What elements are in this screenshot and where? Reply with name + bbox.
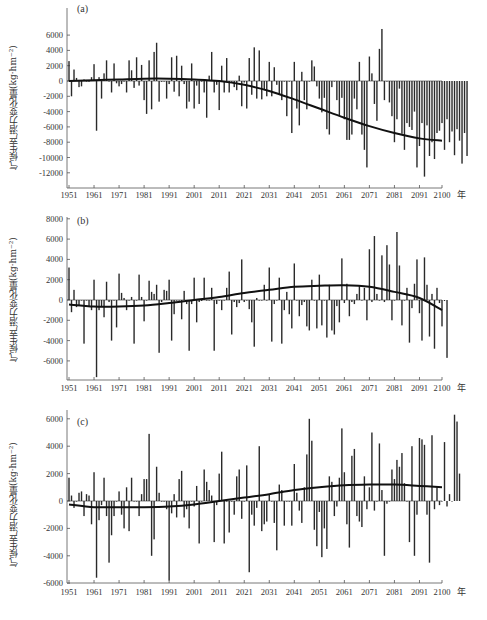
data-bar — [324, 501, 325, 528]
data-bar — [239, 300, 240, 303]
y-tick-label: 4000 — [46, 45, 63, 55]
data-bar — [304, 300, 305, 302]
y-tick-label: 0 — [59, 76, 63, 86]
data-bar — [131, 478, 132, 501]
data-bar — [364, 288, 365, 300]
data-bar — [434, 501, 435, 509]
data-bar — [441, 300, 442, 326]
data-bar — [143, 300, 144, 321]
data-bar — [396, 460, 397, 501]
data-bar — [141, 494, 142, 501]
data-bar — [71, 300, 72, 312]
data-bar — [276, 501, 277, 550]
data-bar — [436, 487, 437, 501]
data-bar — [359, 286, 360, 300]
data-bar — [171, 300, 172, 341]
data-bar — [213, 300, 214, 351]
data-bar — [138, 275, 139, 300]
data-bar — [96, 300, 97, 377]
data-bar — [464, 81, 465, 133]
data-bar — [224, 501, 225, 543]
data-bar — [411, 446, 412, 501]
data-bar — [376, 81, 377, 121]
data-bar — [111, 81, 112, 92]
data-bar — [394, 479, 395, 501]
data-bar — [166, 81, 167, 99]
x-tick-label: 2091 — [411, 587, 428, 597]
data-bar — [166, 501, 167, 509]
data-bar — [299, 81, 300, 125]
data-bar — [254, 47, 255, 81]
x-axis-label: 年 — [457, 586, 466, 597]
data-bar — [414, 81, 415, 112]
data-bar — [329, 81, 330, 135]
x-tick-label: 2081 — [386, 190, 403, 200]
data-bar — [269, 268, 270, 300]
data-bar — [239, 469, 240, 501]
data-bar — [444, 300, 445, 301]
data-bar — [349, 501, 350, 548]
data-bar — [156, 285, 157, 300]
data-bar — [196, 300, 197, 322]
data-bar — [118, 81, 119, 86]
data-bar — [266, 501, 267, 522]
data-bar — [78, 493, 79, 501]
panel-a: 6000400020000-2000-4000-6000-8000-10000-… — [39, 3, 468, 200]
data-bar — [384, 300, 385, 302]
data-bar — [331, 81, 332, 87]
data-bar — [126, 487, 127, 501]
x-tick-label: 1991 — [161, 587, 178, 597]
data-bar — [251, 501, 252, 515]
x-tick-label: 2021 — [236, 587, 253, 597]
data-bar — [379, 49, 380, 81]
data-bar — [88, 496, 89, 501]
data-bar — [409, 501, 410, 542]
data-bar — [153, 294, 154, 300]
data-bar — [441, 81, 442, 123]
data-bar — [221, 300, 222, 310]
data-bar — [306, 300, 307, 326]
data-bar — [429, 501, 430, 563]
data-bar — [369, 249, 370, 300]
x-tick-label: 2100 — [434, 190, 451, 200]
data-bar — [374, 501, 375, 511]
data-bar — [299, 300, 300, 316]
data-bar — [419, 81, 420, 146]
data-bar — [153, 52, 154, 81]
data-bar — [309, 300, 310, 330]
y-tick-label: -4000 — [43, 336, 63, 346]
panel-label: (a) — [77, 3, 88, 15]
data-bar — [434, 81, 435, 159]
data-bar — [251, 81, 252, 95]
data-bar — [456, 81, 457, 129]
data-bar — [359, 501, 360, 522]
data-bar — [301, 501, 302, 523]
data-bar — [381, 490, 382, 501]
x-tick-label: 2061 — [336, 383, 353, 393]
data-bar — [301, 72, 302, 81]
x-tick-label: 1961 — [86, 587, 103, 597]
data-bar — [116, 81, 117, 83]
data-bar — [136, 57, 137, 81]
data-bar — [296, 493, 297, 501]
data-bar — [138, 81, 139, 86]
data-bar — [251, 300, 252, 322]
x-tick-label: 2001 — [186, 190, 203, 200]
y-tick-label: 0 — [59, 496, 63, 506]
data-bar — [213, 501, 214, 542]
data-bar — [271, 300, 272, 342]
data-bar — [371, 433, 372, 502]
data-bar — [451, 501, 452, 502]
data-bar — [71, 81, 72, 96]
data-bar — [96, 501, 97, 578]
data-bar — [148, 281, 149, 300]
data-bar — [198, 501, 199, 543]
data-bar — [126, 300, 127, 310]
data-bar — [321, 81, 322, 112]
x-tick-label: 2081 — [386, 587, 403, 597]
data-bar — [419, 438, 420, 501]
data-bar — [96, 81, 97, 131]
data-bar — [291, 300, 292, 328]
y-tick-label: 0 — [59, 295, 63, 305]
data-bar — [113, 501, 114, 516]
